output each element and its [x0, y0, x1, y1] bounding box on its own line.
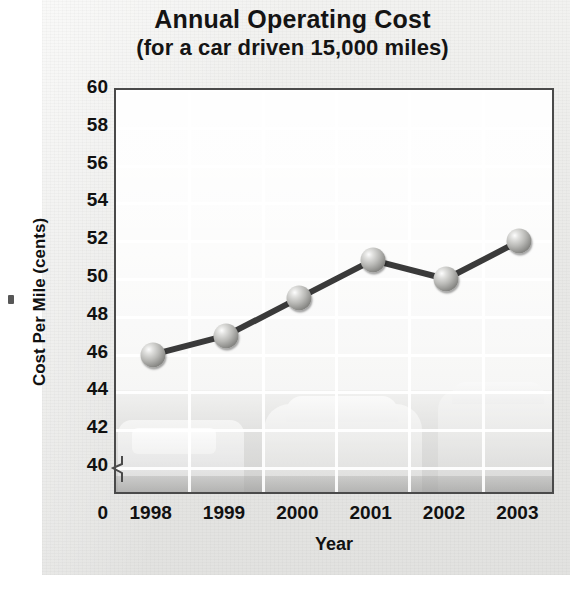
x-axis-title: Year: [114, 534, 554, 555]
y-tick-label: 44: [64, 378, 108, 400]
y-tick-label: 60: [64, 76, 108, 98]
data-point-marker: [287, 285, 312, 310]
y-axis-ticks: 60585654525048464442400: [52, 0, 108, 592]
data-point-marker: [360, 248, 385, 273]
axis-break-icon: [108, 456, 126, 482]
data-point-marker: [214, 323, 239, 348]
x-tick-label: 1999: [184, 502, 264, 524]
data-point-marker: [507, 229, 532, 254]
y-axis-title: Cost Per Mile (cents): [30, 202, 50, 402]
x-tick-label: 2002: [404, 502, 484, 524]
y-tick-label: 58: [64, 114, 108, 136]
data-line: [116, 90, 554, 494]
plot-area: [114, 88, 554, 494]
x-tick-label: 1998: [111, 502, 191, 524]
y-tick-label: 52: [64, 227, 108, 249]
data-point-marker: [434, 267, 459, 292]
y-tick-label: 54: [64, 189, 108, 211]
y-tick-label: 56: [64, 152, 108, 174]
y-tick-label: 50: [64, 265, 108, 287]
y-tick-label: 40: [64, 454, 108, 476]
series-line: [153, 241, 520, 354]
y-tick-label: 42: [64, 416, 108, 438]
x-tick-label: 2000: [257, 502, 337, 524]
y-tick-label: 0: [64, 502, 108, 524]
page-margin-artifact: [8, 295, 14, 304]
x-tick-label: 2003: [477, 502, 557, 524]
data-point-marker: [140, 342, 165, 367]
y-tick-label: 46: [64, 341, 108, 363]
y-tick-label: 48: [64, 303, 108, 325]
scanned-page: Annual Operating Cost (for a car driven …: [0, 0, 585, 592]
x-tick-label: 2001: [331, 502, 411, 524]
data-series-layer: [116, 90, 552, 492]
